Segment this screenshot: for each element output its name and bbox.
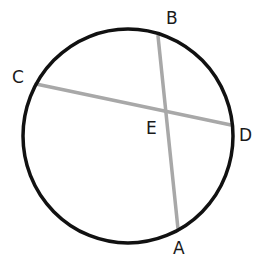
circle — [23, 29, 233, 243]
chord-cd — [36, 84, 231, 125]
chord-ab — [158, 36, 178, 229]
circle-chords-diagram: B C E D A — [0, 0, 267, 263]
label-point-b: B — [166, 8, 178, 28]
label-point-d: D — [239, 125, 252, 145]
label-point-e: E — [146, 118, 157, 138]
label-point-a: A — [173, 238, 185, 258]
label-point-c: C — [12, 67, 24, 87]
